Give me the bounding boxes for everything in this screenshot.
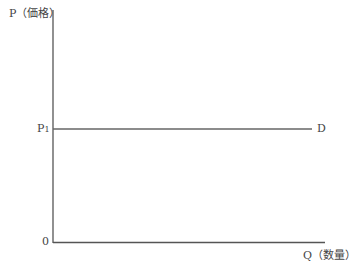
chart-canvas bbox=[0, 0, 353, 268]
demand-label: D bbox=[317, 123, 326, 135]
p1-tick-label: P1 bbox=[37, 123, 50, 136]
x-axis-label: Q（数量） bbox=[303, 250, 353, 262]
y-axis-label: P（価格） bbox=[9, 8, 60, 20]
origin-label: 0 bbox=[42, 236, 49, 248]
p1-subscript: 1 bbox=[44, 125, 49, 134]
